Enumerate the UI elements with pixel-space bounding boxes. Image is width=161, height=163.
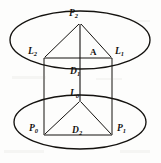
label-l0-sub: 0 bbox=[76, 92, 79, 99]
label-p1: P1 bbox=[117, 124, 126, 134]
label-l1: L1 bbox=[115, 47, 124, 57]
label-d1: D1 bbox=[70, 67, 80, 77]
label-l0: L0 bbox=[70, 89, 79, 99]
label-p2-sub: 2 bbox=[75, 12, 78, 19]
label-l1-sub: 1 bbox=[121, 50, 124, 57]
label-d1-base: D bbox=[70, 66, 77, 76]
segment-l0-p1 bbox=[81, 102, 111, 134]
label-p0: P0 bbox=[29, 124, 38, 134]
label-d2-base: D bbox=[72, 125, 79, 135]
label-p1-sub: 1 bbox=[123, 127, 126, 134]
label-l2-sub: 2 bbox=[34, 50, 37, 57]
lower-plane-ellipse bbox=[14, 95, 146, 149]
label-a: A bbox=[90, 48, 97, 57]
label-p0-sub: 0 bbox=[35, 127, 38, 134]
label-d2: D2 bbox=[72, 126, 82, 136]
geometry-figure: P2 L2 A L1 D1 L0 P0 D2 P1 bbox=[0, 0, 161, 163]
segment-p2-l2 bbox=[45, 24, 79, 57]
label-l2: L2 bbox=[28, 47, 37, 57]
label-d1-sub: 1 bbox=[77, 70, 80, 77]
label-p2: P2 bbox=[69, 9, 78, 19]
figure-canvas bbox=[0, 0, 161, 163]
label-d2-sub: 2 bbox=[79, 129, 82, 136]
